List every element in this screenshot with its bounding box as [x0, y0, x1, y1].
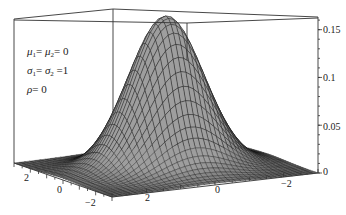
annotation-rho: ρ= 0	[27, 82, 69, 97]
surface-plot	[0, 0, 346, 215]
annotation-means: μ1= μ2= 0	[27, 44, 69, 63]
z-tick-label: 0.15	[323, 24, 341, 35]
left-axis-tick-label: 0	[57, 184, 62, 195]
front-axis-tick-label: −2	[281, 178, 292, 189]
z-tick-label: 0.05	[323, 121, 341, 132]
left-axis-tick-label: 2	[24, 172, 29, 183]
z-tick-label: 0	[323, 166, 328, 177]
z-tick-label: 0.1	[323, 72, 336, 83]
left-axis-tick-label: −2	[85, 197, 96, 208]
front-axis-tick-label: 0	[215, 184, 220, 195]
annotation-sigmas: σ1= σ2 =1	[27, 63, 69, 82]
front-axis-tick-label: 2	[145, 192, 150, 203]
parameter-annotation: μ1= μ2= 0 σ1= σ2 =1 ρ= 0	[27, 44, 69, 97]
